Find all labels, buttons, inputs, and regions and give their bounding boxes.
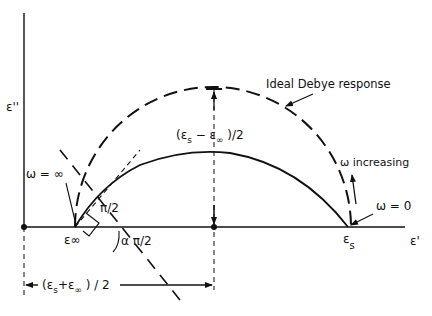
right-angle-label: π/2 <box>100 201 119 215</box>
eps-inf-label: ε∞ <box>64 233 80 247</box>
cole-cole-diagram: ε'' ε' (εs − ε∞ )/2 Ideal Debye response… <box>0 0 432 316</box>
right-angle-marker <box>83 213 99 236</box>
y-axis-label: ε'' <box>6 100 19 114</box>
omega-zero-label: ω = 0 <box>376 199 411 213</box>
omega-inf-label: ω = ∞ <box>26 167 64 181</box>
half-sum-label: (εs+ε∞ ) / 2 <box>42 278 110 295</box>
omega-increasing-arrow <box>352 175 356 204</box>
omega-inf-pointer <box>66 183 76 225</box>
depressed-arc <box>75 152 348 227</box>
eps-s-label: εs <box>343 232 355 251</box>
ideal-pointer-arrow <box>286 94 313 106</box>
alpha-angle-label: α π/2 <box>121 234 152 248</box>
tangent-dashed-line <box>75 150 140 227</box>
omega-zero-arrow <box>351 214 373 225</box>
omega-increasing-label: ω increasing <box>340 156 409 169</box>
half-diff-label: (εs − ε∞ )/2 <box>176 128 244 145</box>
ideal-debye-label: Ideal Debye response <box>266 77 391 91</box>
alpha-angle-arc <box>113 231 119 252</box>
x-axis-label: ε' <box>410 234 420 248</box>
